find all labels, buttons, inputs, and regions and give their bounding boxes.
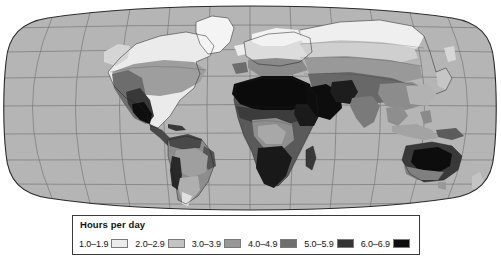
legend-label: 6.0–6.9 <box>361 239 390 249</box>
legend-swatch <box>337 239 354 248</box>
legend-item: 2.0–2.9 <box>135 239 191 249</box>
legend-label: 1.0–1.9 <box>79 239 108 249</box>
legend-item: 4.0–4.9 <box>248 239 304 249</box>
legend-item: 6.0–6.9 <box>361 239 410 249</box>
legend-swatch <box>280 239 297 248</box>
legend-swatch <box>393 239 410 248</box>
map-legend: Hours per day 1.0–1.9 2.0–2.9 3.0–3.9 4.… <box>72 215 420 255</box>
legend-label: 4.0–4.9 <box>248 239 277 249</box>
legend-swatch <box>168 239 185 248</box>
legend-item: 1.0–1.9 <box>79 239 135 249</box>
legend-label: 3.0–3.9 <box>192 239 221 249</box>
legend-swatch <box>111 239 128 248</box>
legend-label: 2.0–2.9 <box>135 239 164 249</box>
legend-title: Hours per day <box>80 219 145 230</box>
legend-item: 3.0–3.9 <box>192 239 248 249</box>
legend-swatch <box>224 239 241 248</box>
legend-item: 5.0–5.9 <box>304 239 360 249</box>
legend-label: 5.0–5.9 <box>304 239 333 249</box>
world-sunshine-map-figure: Hours per day 1.0–1.9 2.0–2.9 3.0–3.9 4.… <box>0 0 501 263</box>
legend-class-list: 1.0–1.9 2.0–2.9 3.0–3.9 4.0–4.9 5.0–5.9 <box>79 236 416 251</box>
